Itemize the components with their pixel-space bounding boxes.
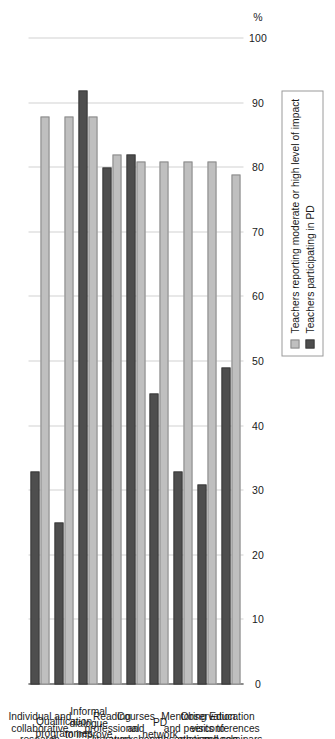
- bar-moderate-or-high-impact: [207, 161, 216, 684]
- axis-tick-label: 30: [252, 470, 263, 510]
- bar-moderate-or-high-impact: [136, 161, 145, 684]
- bar-moderate-or-high-impact: [88, 116, 97, 684]
- rotated-chart-container: 0102030405060708090100 % Individual andc…: [0, 0, 335, 739]
- bar-group: [195, 38, 219, 684]
- axis-tick-label: 80: [252, 147, 263, 187]
- bar-group: [171, 38, 195, 684]
- axis-unit-label: %: [252, 13, 263, 22]
- bar-moderate-or-high-impact: [183, 161, 192, 684]
- bar-group: [52, 38, 76, 684]
- axis-tick-label: 40: [252, 406, 263, 446]
- legend-swatch-light-icon: [290, 339, 299, 348]
- axis-tick-label: 20: [252, 535, 263, 575]
- axis-tick-label: 70: [252, 212, 263, 252]
- bar-participating-in-pd: [197, 484, 206, 684]
- bar-moderate-or-high-impact: [64, 116, 73, 684]
- bar-participating-in-pd: [173, 471, 182, 684]
- bar-group: [124, 38, 148, 684]
- bar-group: [147, 38, 171, 684]
- axis-tick-label: 0: [252, 664, 263, 704]
- axis-tick-label: 10: [252, 599, 263, 639]
- bar-moderate-or-high-impact: [112, 154, 121, 684]
- legend-item: Teachers reporting moderate or high leve…: [289, 98, 300, 348]
- axis-tick-label: 90: [252, 83, 263, 123]
- bar-participating-in-pd: [54, 523, 63, 685]
- bar-participating-in-pd: [221, 367, 230, 684]
- bar-participating-in-pd: [102, 167, 111, 684]
- bar-moderate-or-high-impact: [159, 161, 168, 684]
- bar-participating-in-pd: [30, 471, 39, 684]
- legend-item-label: Teachers reporting moderate or high leve…: [289, 98, 300, 333]
- legend-item-label: Teachers participating in PD: [304, 205, 315, 333]
- bar-participating-in-pd: [78, 90, 87, 684]
- legend-swatch-dark-icon: [305, 339, 314, 348]
- legend-item: Teachers participating in PD: [304, 98, 315, 348]
- bar-group: [100, 38, 124, 684]
- bar-participating-in-pd: [126, 154, 135, 684]
- bar-group: [28, 38, 52, 684]
- axis-tick-label: 60: [252, 276, 263, 316]
- bar-group: [76, 38, 100, 684]
- bar-participating-in-pd: [149, 393, 158, 684]
- plot-area: [28, 38, 243, 684]
- bar-moderate-or-high-impact: [40, 116, 49, 684]
- chart-legend: Teachers reporting moderate or high leve…: [281, 90, 323, 356]
- axis-tick-label: 50: [252, 341, 263, 381]
- chart-canvas: 0102030405060708090100 % Individual andc…: [0, 0, 335, 739]
- axis-tick-label: 100: [252, 18, 263, 58]
